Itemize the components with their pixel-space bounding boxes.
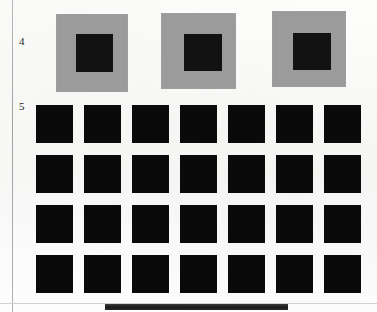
gray-patch-3	[272, 11, 346, 87]
gray-patch-2	[161, 13, 236, 89]
grid-square	[132, 205, 169, 243]
figure-label-5: 5	[19, 101, 25, 112]
grid-square	[324, 155, 361, 193]
grid-square	[228, 155, 265, 193]
grid-square	[324, 255, 361, 293]
grid-square	[276, 105, 313, 143]
grid-square	[276, 255, 313, 293]
grid-square	[228, 105, 265, 143]
grid-square	[180, 255, 217, 293]
gray-patch-1	[56, 14, 128, 92]
grid-square	[180, 105, 217, 143]
figure-label-4: 4	[19, 36, 25, 47]
grid-square	[84, 155, 121, 193]
grid-square	[324, 105, 361, 143]
grid-square	[228, 205, 265, 243]
grid-square	[36, 205, 73, 243]
grid-square	[36, 105, 73, 143]
grid-square	[84, 105, 121, 143]
black-square-grid	[36, 105, 361, 293]
grid-square	[84, 255, 121, 293]
grid-square	[324, 205, 361, 243]
grid-square	[36, 155, 73, 193]
scanned-page: 4 5	[0, 0, 377, 312]
page-foot-bar	[105, 304, 288, 310]
inner-black-square-1	[76, 34, 113, 72]
grid-square	[180, 155, 217, 193]
grid-square	[132, 155, 169, 193]
grid-square	[132, 255, 169, 293]
grid-square	[132, 105, 169, 143]
grid-square	[276, 155, 313, 193]
grid-square	[180, 205, 217, 243]
inner-black-square-2	[184, 34, 222, 71]
grid-square	[228, 255, 265, 293]
grid-square	[276, 205, 313, 243]
inner-black-square-3	[293, 33, 331, 70]
grid-square	[36, 255, 73, 293]
grid-square	[84, 205, 121, 243]
page-left-rule	[12, 0, 13, 312]
